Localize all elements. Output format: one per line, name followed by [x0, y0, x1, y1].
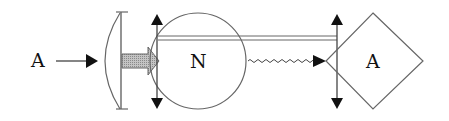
node-n: N [150, 13, 246, 109]
wavy-arrow [248, 55, 326, 67]
input-label: A [30, 49, 45, 71]
diagram-canvas: A N A [0, 0, 449, 121]
node-n-label: N [190, 50, 207, 72]
shaded-arrow [122, 47, 159, 75]
input-arrow [56, 54, 98, 68]
node-a-label: A [365, 50, 380, 72]
node-a-diamond: A [326, 13, 423, 109]
double-line [158, 36, 337, 40]
vertical-double-arrow-right [331, 14, 343, 109]
